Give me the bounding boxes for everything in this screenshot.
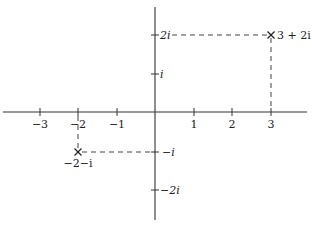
x-tick-label: −3 bbox=[32, 118, 48, 131]
y-tick-label: 2i bbox=[159, 29, 171, 42]
x-tick-label: 3 bbox=[268, 118, 275, 131]
x-tick-label: 1 bbox=[191, 118, 198, 131]
y-tick-label: −i bbox=[162, 146, 175, 159]
point-label-3-plus-2i: 3 + 2i bbox=[277, 29, 311, 42]
y-tick-label: −2i bbox=[160, 184, 180, 197]
complex-plane-diagram: −3 −2 −1 1 2 3 2i i −i −2i 3 + 2i −2−i bbox=[0, 0, 312, 235]
x-mark-icon bbox=[268, 32, 275, 39]
y-tick-label: i bbox=[160, 68, 164, 81]
x-tick-label: 2 bbox=[229, 118, 236, 131]
projection-lines bbox=[78, 35, 271, 152]
y-tick-labels: 2i i −i −2i bbox=[159, 29, 180, 197]
x-tick-label: −1 bbox=[109, 118, 125, 131]
x-mark-icon bbox=[75, 149, 82, 156]
point-label-neg2-minus-i: −2−i bbox=[64, 157, 93, 170]
x-tick-labels: −3 −2 −1 1 2 3 bbox=[32, 118, 275, 131]
